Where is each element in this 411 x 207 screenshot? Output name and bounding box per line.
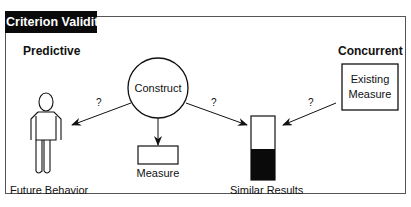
- similar-results-label: Similar Results: [230, 184, 303, 196]
- future-behavior-label: Future Behavior: [10, 184, 88, 196]
- construct-label: Construct: [128, 81, 188, 96]
- question-mark-concurrent: ?: [308, 97, 314, 108]
- diagram-graphics: [0, 0, 411, 207]
- measure-label: Measure: [128, 166, 188, 181]
- person-icon: [31, 93, 61, 173]
- question-mark-predictive: ?: [96, 97, 102, 108]
- question-mark-construct-results: ?: [211, 97, 217, 108]
- existing-measure-line2: Measure: [342, 87, 398, 102]
- similar-results-icon: [251, 116, 275, 180]
- existing-measure-line1: Existing: [342, 72, 398, 87]
- measure-node: [138, 146, 178, 164]
